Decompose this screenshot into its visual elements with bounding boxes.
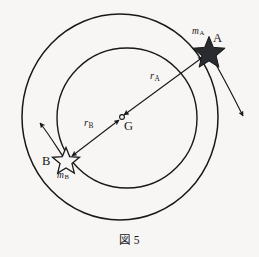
- mass-a-label: mA: [192, 27, 204, 37]
- radius-a-subscript: A: [154, 74, 160, 83]
- mass-b-symbol: m: [57, 170, 64, 180]
- barycenter-label: G: [124, 120, 133, 133]
- body-a-label: A: [213, 32, 222, 45]
- figure-caption: 図 5: [0, 231, 259, 247]
- body-b-label: B: [42, 155, 50, 168]
- figure-container: mA A mB B rA rB G 図 5: [0, 0, 259, 257]
- radius-a-label: rA: [150, 71, 160, 82]
- mass-a-symbol: m: [192, 26, 199, 36]
- mass-a-subscript: A: [199, 29, 204, 36]
- mass-b-label: mB: [57, 171, 69, 181]
- inner-orbit-path: [57, 48, 197, 188]
- radius-a-arrow: [124, 57, 203, 115]
- radius-b-label: rB: [84, 118, 94, 129]
- mass-b-subscript: B: [64, 173, 69, 180]
- radius-b-arrow: [72, 120, 119, 156]
- radius-b-subscript: B: [88, 121, 93, 130]
